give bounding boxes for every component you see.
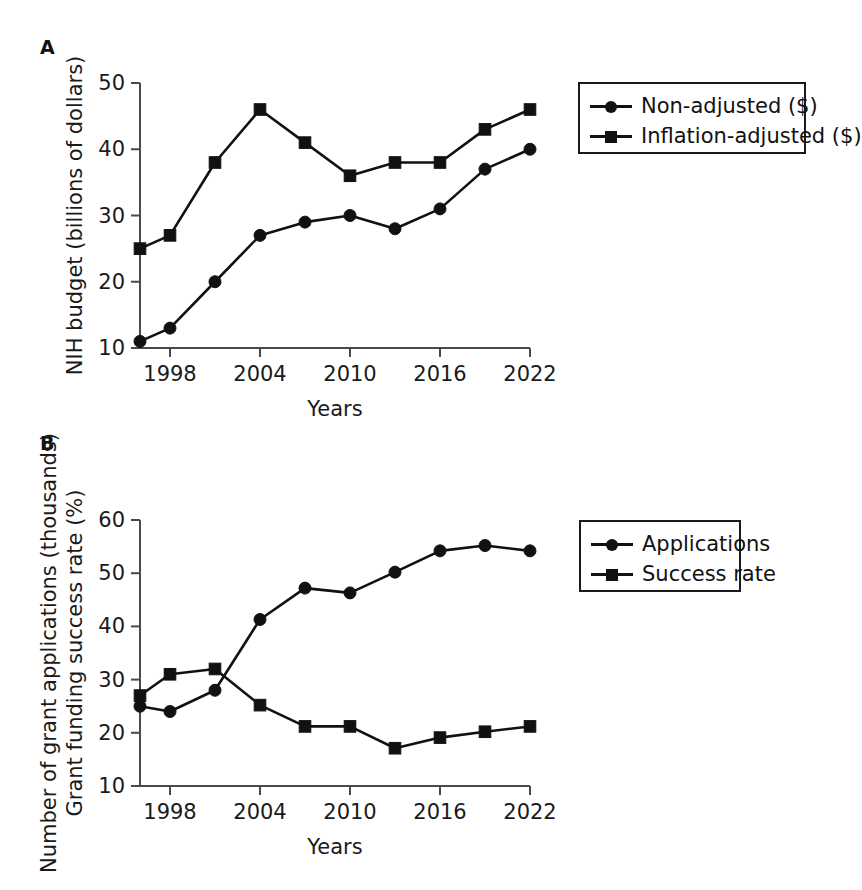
x-tick-label: 2022 [503,362,556,386]
data-point-marker [434,203,446,215]
legend-label-success-rate: Success rate [642,564,776,585]
legend-label-non-adjusted: Non-adjusted ($) [641,96,818,117]
x-tick-label: 2010 [323,800,376,824]
data-point-marker [389,742,401,754]
y-tick-label: 10 [98,336,125,360]
panel-a: A 102030405019982004201020162022YearsNIH… [0,0,854,430]
x-tick-label: 1998 [143,362,196,386]
data-point-marker [299,721,311,733]
data-point-marker [344,721,356,733]
chart-b-plot: 10203040506019982004201020162022YearsNum… [0,420,854,890]
y-tick-label: 30 [98,204,125,228]
data-point-marker [254,613,266,625]
x-tick-label: 2016 [413,800,466,824]
y-tick-label: 10 [98,774,125,798]
series-line-circle [140,149,530,341]
data-point-marker [434,545,446,557]
series-line-square [140,110,530,249]
legend-label-applications: Applications [642,534,770,555]
data-point-marker [254,104,266,116]
data-point-marker [524,721,536,733]
data-point-marker [209,276,221,288]
y-tick-label: 50 [98,561,125,585]
data-point-marker [209,684,221,696]
data-point-marker [209,663,221,675]
y-tick-label: 20 [98,270,125,294]
data-point-marker [134,335,146,347]
legend-panel-a: Non-adjusted ($) Inflation-adjusted ($) [578,82,806,154]
y-tick-label: 40 [98,614,125,638]
x-axis-title: Years [306,397,362,421]
x-tick-label: 1998 [143,800,196,824]
data-point-marker [344,170,356,182]
legend-item-applications: Applications [591,529,725,559]
legend-item-inflation-adjusted: Inflation-adjusted ($) [590,121,790,151]
legend-label-inflation-adjusted: Inflation-adjusted ($) [641,126,862,147]
data-point-marker [479,124,491,136]
data-point-marker [479,163,491,175]
legend-item-non-adjusted: Non-adjusted ($) [590,91,790,121]
data-point-marker [479,726,491,738]
series-line-circle [140,546,530,712]
y-axis-title: Grant funding success rate (%) [63,490,87,817]
data-point-marker [299,216,311,228]
data-point-marker [389,223,401,235]
data-point-marker [209,157,221,169]
y-tick-label: 20 [98,721,125,745]
legend-item-success-rate: Success rate [591,559,725,589]
legend-circle-marker-icon [591,534,633,554]
data-point-marker [344,210,356,222]
x-tick-label: 2022 [503,800,556,824]
data-point-marker [524,545,536,557]
legend-circle-marker-icon [590,96,632,116]
data-point-marker [254,699,266,711]
y-tick-label: 50 [98,71,125,95]
data-point-marker [344,587,356,599]
data-point-marker [164,706,176,718]
data-point-marker [164,322,176,334]
series-line-square [140,669,530,748]
data-point-marker [479,540,491,552]
x-axis-title: Years [306,835,362,859]
data-point-marker [134,690,146,702]
data-point-marker [434,157,446,169]
panel-b: B 10203040506019982004201020162022YearsN… [0,420,854,890]
data-point-marker [389,566,401,578]
y-axis-title: Number of grant applications (thousands) [37,433,61,873]
legend-square-marker-icon [591,564,633,584]
data-point-marker [299,137,311,149]
data-point-marker [389,157,401,169]
data-point-marker [434,732,446,744]
data-point-marker [164,230,176,242]
data-point-marker [134,700,146,712]
legend-panel-b: Applications Success rate [579,520,741,592]
y-tick-label: 60 [98,508,125,532]
data-point-marker [299,582,311,594]
data-point-marker [524,104,536,116]
data-point-marker [524,143,536,155]
legend-square-marker-icon [590,126,632,146]
data-point-marker [164,668,176,680]
x-tick-label: 2004 [233,362,286,386]
y-tick-label: 30 [98,668,125,692]
x-tick-label: 2004 [233,800,286,824]
chart-a-plot: 102030405019982004201020162022YearsNIH b… [0,0,854,430]
data-point-marker [254,229,266,241]
y-tick-label: 40 [98,137,125,161]
data-point-marker [134,243,146,255]
y-axis-title: NIH budget (billions of dollars) [63,56,87,376]
x-tick-label: 2016 [413,362,466,386]
x-tick-label: 2010 [323,362,376,386]
